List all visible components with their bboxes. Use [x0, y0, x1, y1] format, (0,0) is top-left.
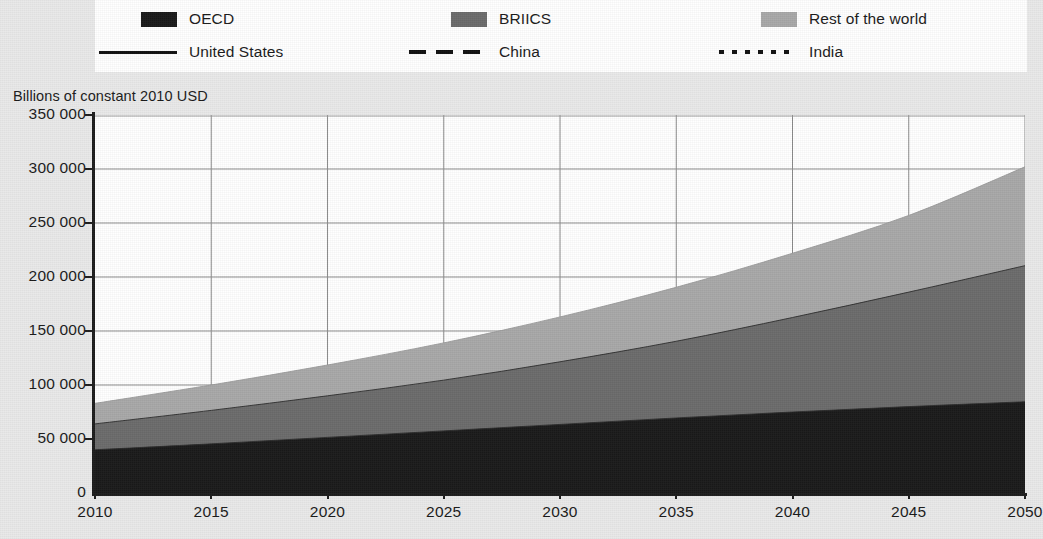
legend-item-china: China — [405, 36, 715, 68]
legend-line-solid-icon — [95, 51, 189, 54]
x-tick-label: 2035 — [646, 503, 706, 521]
x-tick-mark — [327, 493, 329, 499]
x-tick-mark — [559, 493, 561, 499]
y-tick-label: 0 — [6, 483, 86, 501]
legend-item-united-states: United States — [95, 36, 405, 68]
legend-label-rest-of-the-world: Rest of the world — [809, 10, 927, 28]
legend-label-briics: BRIICS — [499, 10, 551, 28]
legend-item-rest-of-the-world: Rest of the world — [715, 3, 1025, 35]
x-tick-label: 2040 — [763, 503, 823, 521]
y-tick-mark — [85, 114, 94, 116]
y-tick-mark — [85, 330, 94, 332]
plot-area — [95, 115, 1025, 493]
y-tick-label: 300 000 — [6, 159, 86, 177]
x-tick-mark — [792, 493, 794, 499]
y-tick-label: 350 000 — [6, 105, 86, 123]
x-tick-label: 2020 — [298, 503, 358, 521]
legend-swatch-black-icon — [95, 12, 189, 27]
stacked-area-chart — [95, 115, 1025, 493]
y-tick-label: 100 000 — [6, 375, 86, 393]
y-tick-label: 50 000 — [6, 429, 86, 447]
legend-label-oecd: OECD — [189, 10, 234, 28]
legend-item-briics: BRIICS — [405, 3, 715, 35]
x-tick-label: 2015 — [181, 503, 241, 521]
legend-row-areas: OECD BRIICS Rest of the world — [95, 3, 1027, 35]
x-tick-mark — [94, 493, 96, 499]
legend-line-dashed-icon — [405, 50, 499, 54]
legend-swatch-light-gray-icon — [715, 12, 809, 27]
legend-label-china: China — [499, 43, 540, 61]
x-tick-label: 2045 — [879, 503, 939, 521]
y-tick-mark — [85, 168, 94, 170]
y-tick-mark — [85, 276, 94, 278]
x-tick-label: 2025 — [414, 503, 474, 521]
y-axis-tick-labels: 350 000300 000250 000200 000150 000100 0… — [0, 0, 86, 539]
y-tick-mark — [85, 222, 94, 224]
legend-item-india: India — [715, 36, 1025, 68]
x-tick-mark — [908, 493, 910, 499]
legend-label-united-states: United States — [189, 43, 283, 61]
x-tick-mark — [210, 493, 212, 499]
x-tick-mark — [443, 493, 445, 499]
legend-swatch-dark-gray-icon — [405, 12, 499, 27]
legend-label-india: India — [809, 43, 843, 61]
x-tick-label: 2030 — [530, 503, 590, 521]
x-tick-mark — [675, 493, 677, 499]
y-tick-mark — [85, 384, 94, 386]
legend-item-oecd: OECD — [95, 3, 405, 35]
y-axis-title: Billions of constant 2010 USD — [13, 88, 208, 104]
x-tick-mark — [1024, 493, 1026, 499]
chart-legend: OECD BRIICS Rest of the world United Sta… — [95, 0, 1027, 72]
x-tick-label: 2010 — [65, 503, 125, 521]
y-tick-label: 150 000 — [6, 321, 86, 339]
y-tick-mark — [85, 438, 94, 440]
x-tick-label: 2050 — [995, 503, 1043, 521]
legend-line-dotted-icon — [715, 50, 809, 54]
y-tick-label: 200 000 — [6, 267, 86, 285]
legend-row-lines: United States China India — [95, 36, 1027, 68]
y-tick-label: 250 000 — [6, 213, 86, 231]
